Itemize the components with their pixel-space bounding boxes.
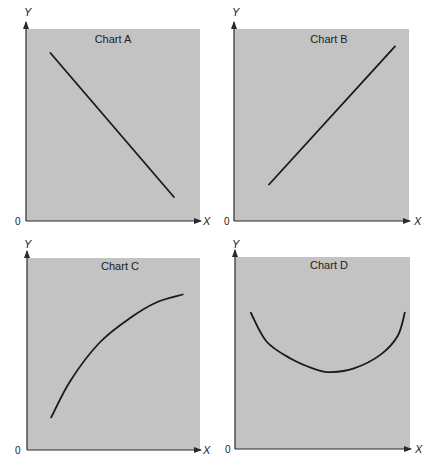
chart-title: Chart C	[101, 260, 139, 272]
chart-title: Chart B	[310, 33, 347, 45]
origin-label: 0	[225, 444, 231, 455]
panel-chart-d: Chart D Y X 0	[225, 238, 423, 455]
x-axis-label: X	[413, 215, 422, 227]
chart-title: Chart D	[310, 259, 348, 271]
y-axis-label: Y	[24, 6, 32, 18]
y-axis-label: Y	[232, 6, 240, 18]
chart-title: Chart A	[95, 33, 132, 45]
x-axis-label: X	[414, 443, 423, 455]
origin-label: 0	[15, 445, 21, 456]
origin-label: 0	[15, 216, 21, 227]
plot-area	[27, 258, 200, 450]
y-axis-label: Y	[232, 238, 240, 250]
plot-area	[234, 29, 409, 221]
x-axis-label: X	[202, 444, 211, 456]
y-axis-label: Y	[24, 238, 32, 250]
chart-figure: Chart A Y X 0 Chart B Y X 0 Chart C Y X …	[0, 0, 440, 473]
origin-label: 0	[224, 216, 230, 227]
panel-chart-a: Chart A Y X 0	[15, 6, 211, 227]
x-axis-label: X	[202, 215, 211, 227]
panel-chart-b: Chart B Y X 0	[224, 6, 422, 227]
panel-chart-c: Chart C Y X 0	[15, 238, 211, 456]
